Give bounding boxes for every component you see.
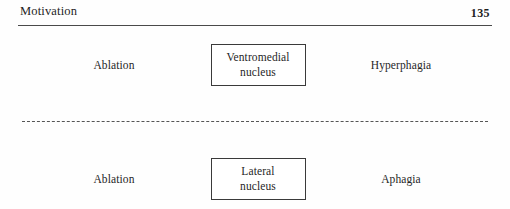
node-box: Lateral nucleus <box>211 158 306 200</box>
flow-outcome-cell: Aphagia <box>306 156 492 202</box>
node-label-line-1: Lateral <box>216 164 301 179</box>
running-header-title: Motivation <box>20 4 77 19</box>
flow-stimulus-cell: Ablation <box>18 42 210 88</box>
header-rule <box>18 25 492 26</box>
page-number: 135 <box>471 6 490 21</box>
section-divider <box>22 121 488 122</box>
node-label-line-1: Ventromedial <box>216 50 301 65</box>
document-page: Motivation 135 Ablation Ventromedial nuc… <box>0 0 510 209</box>
flow-stimulus-cell: Ablation <box>18 156 210 202</box>
flow-outcome-label: Hyperphagia <box>371 59 432 71</box>
flow-outcome-cell: Hyperphagia <box>306 42 492 88</box>
flow-node-cell: Lateral nucleus <box>210 156 306 202</box>
node-label-line-2: nucleus <box>216 179 301 194</box>
flow-row: Ablation Ventromedial nucleus Hyperphagi… <box>18 42 492 88</box>
node-label-line-2: nucleus <box>216 65 301 80</box>
flow-outcome-label: Aphagia <box>381 173 421 185</box>
flow-stimulus-label: Ablation <box>93 173 134 185</box>
flow-stimulus-label: Ablation <box>93 59 134 71</box>
node-box: Ventromedial nucleus <box>211 44 306 86</box>
flow-node-cell: Ventromedial nucleus <box>210 42 306 88</box>
running-header: Motivation 135 <box>18 4 492 26</box>
flow-row: Ablation Lateral nucleus Aphagia <box>18 156 492 202</box>
